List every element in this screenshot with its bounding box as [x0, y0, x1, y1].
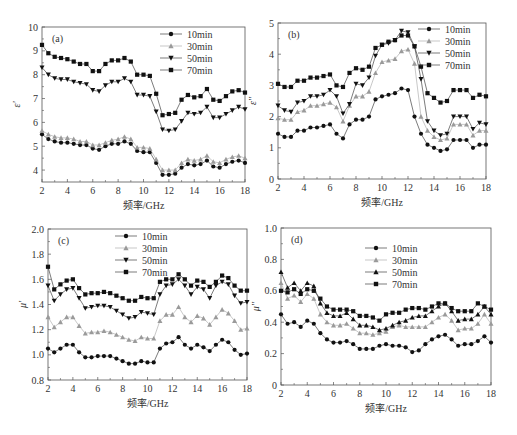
marker-square-icon [183, 277, 187, 281]
marker-square-icon [489, 308, 493, 312]
marker-square-icon [145, 296, 149, 300]
marker-circle-icon [438, 149, 442, 153]
marker-square-icon [345, 308, 349, 312]
y-axis: 012345ε'' [247, 18, 281, 185]
marker-square-icon [192, 95, 196, 99]
legend-label: 70min [392, 279, 418, 290]
marker-circle-icon [208, 349, 212, 353]
y-axis: 00.20.40.60.81.0μ'' [250, 223, 284, 391]
marker-triangle-down-icon [108, 305, 113, 310]
marker-circle-icon [164, 341, 168, 345]
marker-square-icon [195, 278, 199, 282]
x-tick-label: 10 [381, 388, 391, 399]
marker-circle-icon [360, 118, 364, 122]
series-group [39, 43, 247, 177]
marker-triangle-up-icon [195, 313, 200, 318]
marker-square-icon [427, 63, 431, 67]
series-70min [40, 43, 247, 118]
y-tick-label: 10 [28, 22, 38, 33]
y-axis-title: μ'' [250, 301, 261, 312]
marker-circle-icon [419, 132, 423, 136]
marker-triangle-up-icon [311, 284, 316, 289]
marker-circle-icon [312, 322, 316, 326]
marker-circle-icon [354, 118, 358, 122]
marker-circle-icon [220, 338, 224, 342]
marker-triangle-up-icon [201, 316, 206, 321]
marker-circle-icon [110, 142, 114, 146]
marker-circle-icon [145, 360, 149, 364]
x-tick-label: 16 [215, 185, 225, 196]
marker-square-icon [243, 90, 247, 94]
marker-triangle-up-icon [285, 285, 290, 290]
marker-circle-icon [384, 342, 388, 346]
marker-circle-icon [305, 319, 309, 323]
marker-square-icon [230, 89, 234, 93]
x-tick-label: 12 [407, 388, 417, 399]
marker-square-icon [285, 290, 289, 294]
x-axis: 24681012141618频率/GHz [276, 176, 492, 208]
marker-square-icon [325, 304, 329, 308]
y-tick-label: 0.8 [32, 375, 45, 386]
marker-square-icon [53, 55, 57, 59]
marker-triangle-up-icon [128, 137, 133, 142]
marker-circle-icon [423, 342, 427, 346]
marker-circle-icon [226, 340, 230, 344]
marker-square-icon [386, 40, 390, 44]
marker-square-icon [289, 85, 293, 89]
marker-square-icon [279, 289, 283, 293]
marker-triangle-up-icon [182, 315, 187, 320]
marker-square-icon [423, 308, 427, 312]
marker-square-icon [96, 291, 100, 295]
marker-triangle-down-icon [192, 112, 197, 117]
x-tick-label: 4 [302, 182, 307, 193]
x-axis: 24681012141618频率/GHz [279, 382, 497, 414]
y-tick-label: 8 [33, 69, 38, 80]
y-tick-label: 2.0 [32, 224, 45, 235]
marker-circle-icon [299, 325, 303, 329]
y-tick-label: 1.4 [32, 299, 45, 310]
marker-square-icon [122, 56, 126, 60]
marker-triangle-up-icon [278, 269, 283, 274]
y-tick-label: 7 [33, 93, 38, 104]
marker-square-icon [458, 88, 462, 92]
marker-circle-icon [160, 173, 164, 177]
legend: 10min30min50min70min [115, 231, 168, 278]
series-50min [278, 269, 493, 332]
marker-circle-icon [179, 166, 183, 170]
marker-circle-icon [46, 346, 50, 350]
marker-square-icon [443, 301, 447, 305]
marker-circle-icon [133, 362, 137, 366]
marker-triangle-up-icon [226, 311, 231, 316]
marker-square-icon [91, 69, 95, 73]
x-tick-label: 2 [279, 388, 284, 399]
panel-label: (d) [291, 234, 303, 246]
marker-triangle-down-icon [154, 110, 159, 115]
marker-triangle-down-icon [470, 127, 475, 132]
x-tick-label: 2 [276, 182, 281, 193]
marker-circle-icon [198, 162, 202, 166]
marker-circle-icon [469, 342, 473, 346]
marker-circle-icon [116, 142, 120, 146]
series-10min [276, 86, 488, 153]
marker-circle-icon [102, 354, 106, 358]
marker-triangle-down-icon [46, 73, 51, 78]
y-tick-label: 5 [269, 18, 274, 29]
marker-square-icon [65, 278, 69, 282]
y-tick-label: 0.8 [265, 254, 278, 265]
marker-triangle-down-icon [83, 306, 88, 311]
marker-square-icon [218, 99, 222, 103]
marker-triangle-down-icon [340, 111, 345, 116]
marker-triangle-up-icon [482, 312, 487, 317]
marker-circle-icon [195, 343, 199, 347]
marker-triangle-up-icon [305, 291, 310, 296]
marker-circle-icon [108, 354, 112, 358]
marker-triangle-down-icon [151, 312, 156, 317]
marker-triangle-up-icon [120, 335, 125, 340]
y-tick-label: 9 [33, 45, 38, 56]
marker-circle-icon [282, 135, 286, 139]
marker-square-icon [158, 280, 162, 284]
marker-square-icon [451, 88, 455, 92]
marker-circle-icon [458, 138, 462, 142]
marker-triangle-up-icon [327, 100, 332, 105]
x-tick-label: 2 [46, 383, 51, 394]
